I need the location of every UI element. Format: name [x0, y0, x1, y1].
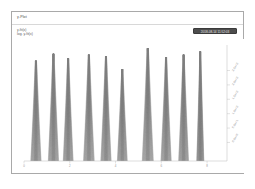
x-axis-tick-label: 2 — [69, 164, 71, 168]
x-axis-tick-label: 4 — [115, 164, 117, 168]
x-axis-tick-label: 6 — [160, 164, 162, 168]
legend-row: y-fit(x) log. y-fit(x) 2018-08-14 11:52:… — [12, 25, 243, 39]
x-axis-tick-label: 8 — [206, 164, 208, 168]
plot-header: y-Plot — [12, 12, 243, 25]
timestamp-badge[interactable]: 2018-08-14 11:52:03 — [193, 28, 237, 34]
page-title: y-Plot — [17, 15, 27, 20]
plot-window: y-Plot y-fit(x) log. y-fit(x) 2018-08-14… — [0, 0, 255, 189]
plot-area[interactable]: 2.5e+22.0e+21.5e+21.0e+25.0e+10.0e+0 024… — [12, 39, 245, 173]
legend-labels: y-fit(x) log. y-fit(x) — [17, 28, 33, 37]
spike-series-svg — [12, 39, 245, 173]
plot-card: y-Plot y-fit(x) log. y-fit(x) 2018-08-14… — [11, 11, 244, 174]
x-axis-tick-label: 0 — [23, 164, 25, 168]
legend-label-secondary: log. y-fit(x) — [17, 32, 33, 36]
